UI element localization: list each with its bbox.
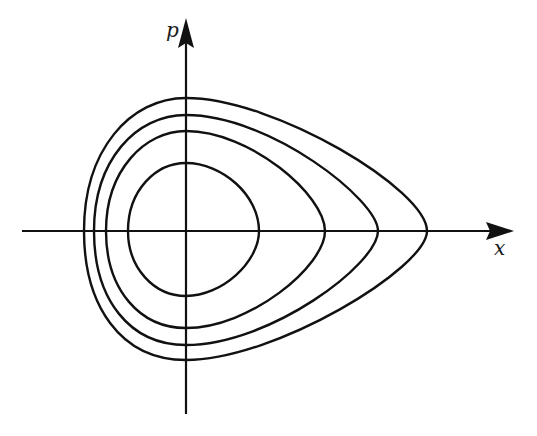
- orbit-2: [106, 131, 325, 328]
- p-axis-label: p: [166, 18, 179, 42]
- orbit-1: [128, 163, 259, 296]
- phase-diagram: [0, 0, 537, 436]
- x-axis-label: x: [494, 236, 505, 260]
- orbit-4: [84, 98, 427, 360]
